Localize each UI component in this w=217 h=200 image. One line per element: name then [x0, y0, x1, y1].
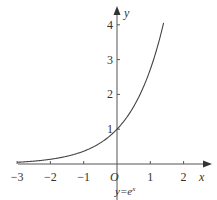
- y-tick-label: 2: [107, 87, 113, 101]
- y-tick-label: 3: [107, 53, 113, 67]
- x-tick-label: −3: [11, 170, 24, 184]
- y-ticks: 1234: [107, 18, 120, 136]
- origin-label: O: [110, 170, 119, 184]
- y-tick-label: 4: [107, 18, 113, 32]
- x-tick-label: −2: [44, 170, 57, 184]
- x-tick-label: 1: [147, 170, 153, 184]
- x-tick-label: −1: [77, 170, 90, 184]
- function-label: y=ex: [114, 185, 136, 197]
- exponential-chart: −3−2−112 1234 x y O y=ex: [0, 0, 217, 200]
- y-axis-label: y: [123, 6, 130, 20]
- x-tick-label: 2: [181, 170, 187, 184]
- x-axis-arrow-icon: [203, 161, 212, 168]
- exp-curve: [17, 23, 164, 162]
- x-axis-label: x: [198, 170, 205, 184]
- y-axis-arrow-icon: [114, 6, 121, 15]
